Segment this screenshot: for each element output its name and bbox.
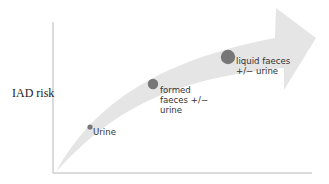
point-urine — [87, 124, 92, 129]
y-axis-label: IAD risk — [12, 86, 54, 101]
point-formed-faeces — [148, 79, 158, 89]
point-label-urine: Urine — [93, 127, 116, 137]
point-label-formed-faeces: formed faeces +/− urine — [160, 85, 208, 115]
point-liquid-faeces — [221, 50, 235, 64]
point-label-liquid-faeces: liquid faeces +/− urine — [236, 56, 290, 76]
iad-risk-diagram: IAD risk Urine formed faeces +/− urine l… — [0, 0, 329, 184]
